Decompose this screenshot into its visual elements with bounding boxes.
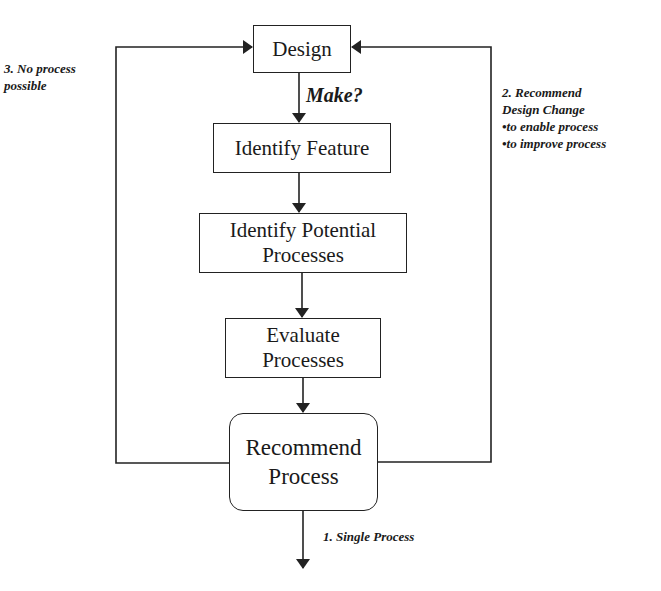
edge-label-make: Make? <box>306 84 363 106</box>
design-change-bullet2: •to improve process <box>502 135 606 152</box>
no-process-line1: 3. No process <box>4 60 76 77</box>
node-design: Design <box>253 25 351 73</box>
node-identify-potential-line1: Identify Potential <box>230 218 376 243</box>
design-change-bullet1: •to enable process <box>502 118 606 135</box>
edge-label-recommend-design-change: 2. Recommend Design Change •to enable pr… <box>502 84 606 152</box>
node-recommend-line2: Process <box>268 462 338 491</box>
node-identify-potential-line2: Processes <box>262 243 344 268</box>
node-identify-feature-label: Identify Feature <box>235 136 370 161</box>
node-design-label: Design <box>272 37 332 62</box>
node-evaluate-processes: Evaluate Processes <box>225 318 381 378</box>
flowchart-canvas: Design Identify Feature Identify Potenti… <box>0 0 661 591</box>
design-change-line2: Design Change <box>502 101 606 118</box>
edge-label-no-process: 3. No process possible <box>4 60 76 94</box>
node-evaluate-line2: Processes <box>262 348 344 373</box>
node-recommend-process: Recommend Process <box>229 413 378 511</box>
design-change-line1: 2. Recommend <box>502 84 606 101</box>
single-process-text: 1. Single Process <box>323 529 414 544</box>
no-process-line2: possible <box>4 77 76 94</box>
edge-label-single-process: 1. Single Process <box>323 528 414 545</box>
node-recommend-line1: Recommend <box>245 433 361 462</box>
node-evaluate-line1: Evaluate <box>266 323 339 348</box>
node-identify-potential-processes: Identify Potential Processes <box>199 213 407 273</box>
node-identify-feature: Identify Feature <box>213 123 391 173</box>
make-text: Make? <box>306 84 363 106</box>
